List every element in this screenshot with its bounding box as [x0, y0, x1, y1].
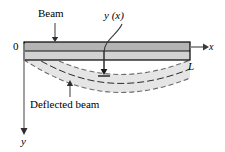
- figure-canvas: [0, 0, 225, 152]
- beam-label: Beam: [38, 8, 64, 19]
- y-axis-arrowhead: [21, 128, 28, 135]
- origin-label: 0: [13, 41, 19, 52]
- x-axis-label: x: [209, 42, 213, 52]
- beam-length-label: L: [188, 61, 194, 72]
- deflected-beam-label: Deflected beam: [30, 99, 99, 110]
- beam-label-arrowhead: [52, 37, 58, 42]
- beam-deflection-figure: Beam y (x) 0 x L Deflected beam y: [0, 0, 225, 152]
- deflection-function-label: y (x): [104, 10, 124, 21]
- y-axis-label: y: [21, 136, 26, 147]
- beam-body-lower: [24, 51, 190, 60]
